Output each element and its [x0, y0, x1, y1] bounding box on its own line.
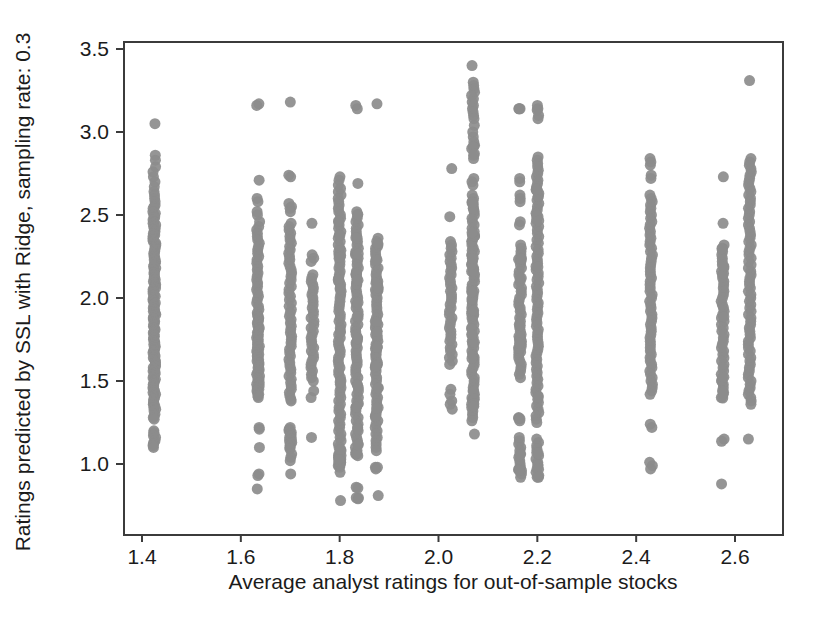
- data-point: [335, 377, 346, 388]
- data-point: [352, 103, 363, 114]
- data-point: [253, 392, 264, 403]
- data-point: [308, 376, 319, 387]
- data-point: [285, 455, 296, 466]
- data-point: [285, 97, 296, 108]
- data-point: [333, 274, 344, 285]
- data-point: [532, 261, 543, 272]
- data-point: [372, 238, 383, 249]
- data-point: [515, 320, 526, 331]
- data-point: [645, 173, 656, 184]
- data-point: [514, 176, 525, 187]
- data-point: [352, 380, 363, 391]
- data-point: [444, 211, 455, 222]
- data-point: [351, 402, 362, 413]
- plot-canvas: 1.41.61.82.02.22.42.6 1.01.52.02.53.03.5…: [0, 0, 816, 624]
- y-tick-label: 1.0: [80, 452, 109, 475]
- y-tick-label: 1.5: [80, 369, 109, 392]
- data-point: [744, 75, 755, 86]
- data-point: [645, 160, 656, 171]
- data-point: [353, 492, 364, 503]
- data-point: [352, 311, 363, 322]
- data-point: [718, 261, 729, 272]
- data-point: [335, 283, 346, 294]
- data-point: [645, 389, 656, 400]
- data-point: [532, 104, 543, 115]
- data-point: [285, 206, 296, 217]
- data-point: [352, 209, 363, 220]
- data-point: [373, 383, 384, 394]
- data-point: [467, 60, 478, 71]
- data-point: [531, 417, 542, 428]
- data-point: [645, 463, 656, 474]
- data-point: [352, 483, 363, 494]
- data-point: [148, 442, 159, 453]
- data-point: [353, 248, 364, 259]
- data-point: [467, 227, 478, 238]
- data-point: [514, 273, 525, 284]
- data-point: [306, 432, 317, 443]
- data-point: [306, 392, 317, 403]
- x-tick-label: 2.4: [622, 545, 652, 568]
- data-point: [444, 359, 455, 370]
- data-point: [515, 372, 526, 383]
- data-point: [532, 472, 543, 483]
- data-point: [306, 218, 317, 229]
- data-point: [533, 392, 544, 403]
- data-point: [352, 275, 363, 286]
- data-point: [285, 468, 296, 479]
- data-point: [466, 329, 477, 340]
- data-point: [333, 216, 344, 227]
- data-point: [515, 196, 526, 207]
- data-point: [352, 333, 363, 344]
- data-point: [469, 148, 480, 159]
- data-point: [371, 403, 382, 414]
- data-point: [254, 424, 265, 435]
- data-point: [372, 326, 383, 337]
- data-point: [352, 423, 363, 434]
- data-point: [646, 422, 657, 433]
- data-point: [514, 413, 525, 424]
- data-point: [254, 175, 265, 186]
- x-axis-label: Average analyst ratings for out-of-sampl…: [229, 570, 678, 593]
- data-point: [514, 219, 525, 230]
- data-point: [467, 253, 478, 264]
- data-point: [350, 232, 361, 243]
- data-point: [286, 395, 297, 406]
- data-point: [468, 305, 479, 316]
- data-point: [745, 399, 756, 410]
- data-point: [306, 256, 317, 267]
- data-point: [513, 103, 524, 114]
- data-point: [251, 100, 262, 111]
- data-point: [718, 311, 729, 322]
- x-tick-label: 1.4: [127, 545, 157, 568]
- data-point: [466, 353, 477, 364]
- data-point: [353, 297, 364, 308]
- data-point: [466, 286, 477, 297]
- data-point: [718, 171, 729, 182]
- data-point: [372, 282, 383, 293]
- data-point: [716, 243, 727, 254]
- data-point: [467, 180, 478, 191]
- data-point: [335, 252, 346, 263]
- data-point: [252, 483, 263, 494]
- data-point: [335, 444, 346, 455]
- data-point: [254, 442, 265, 453]
- data-point: [373, 490, 384, 501]
- data-point: [371, 98, 382, 109]
- data-point: [371, 445, 382, 456]
- x-tick-label: 1.8: [325, 545, 354, 568]
- y-tick-label: 3.5: [80, 37, 109, 60]
- data-point: [333, 454, 344, 465]
- x-tick-label: 2.6: [720, 545, 749, 568]
- y-tick-label: 3.0: [80, 120, 109, 143]
- data-point: [335, 495, 346, 506]
- y-axis-label: Ratings predicted by SSL with Ridge, sam…: [11, 33, 34, 552]
- data-point: [468, 197, 479, 208]
- data-point: [372, 342, 383, 353]
- data-point: [716, 436, 727, 447]
- data-point: [353, 439, 364, 450]
- data-point: [514, 449, 525, 460]
- data-point: [370, 360, 381, 371]
- data-point: [516, 253, 527, 264]
- data-point: [371, 317, 382, 328]
